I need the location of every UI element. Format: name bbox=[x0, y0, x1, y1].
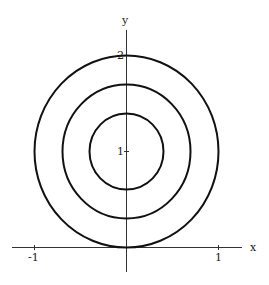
y-axis-label: y bbox=[121, 14, 129, 27]
chart-plot: x y -1 1 1 2 bbox=[0, 0, 269, 285]
y-tick-label-2: 2 bbox=[117, 49, 124, 62]
x-axis-label: x bbox=[250, 241, 257, 254]
y-tick-label-1: 1 bbox=[117, 145, 124, 158]
x-tick-label-neg1: -1 bbox=[28, 251, 39, 264]
x-tick-label-1: 1 bbox=[215, 251, 222, 264]
